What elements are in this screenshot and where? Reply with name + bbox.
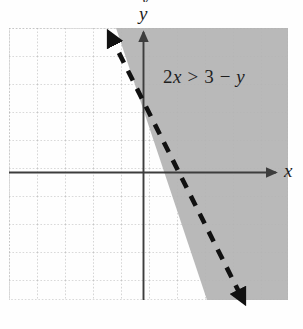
inequality-lhs-variable: x bbox=[173, 66, 182, 87]
y-axis-label: y bbox=[139, 4, 147, 23]
inequality-rhs-constant: 3 bbox=[204, 66, 214, 87]
x-axis-label: x bbox=[284, 161, 292, 180]
inequality-annotation: 2x > 3 − y bbox=[163, 66, 245, 88]
boundary-line bbox=[0, 0, 303, 329]
inequality-relation: > bbox=[188, 66, 199, 87]
inequality-graph-figure: y bbox=[0, 0, 303, 329]
inequality-lhs-coefficient: 2 bbox=[163, 66, 173, 87]
inequality-rhs-operator: − bbox=[220, 66, 231, 87]
inequality-rhs-variable: y bbox=[236, 66, 245, 87]
